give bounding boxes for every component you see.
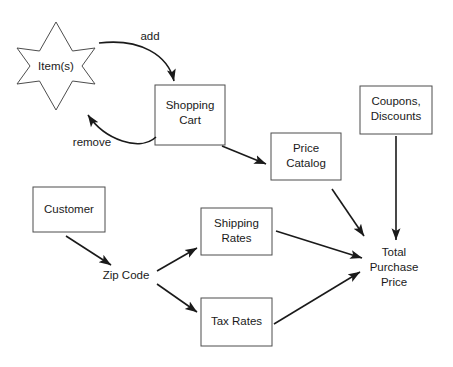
edge-cart-to-catalog[interactable] [222,146,266,164]
edge-customer-to-zip[interactable] [66,236,111,265]
node-total-purchase-price[interactable]: Total Purchase Price [370,246,419,288]
coupons-discounts-label-line2: Discounts [371,110,422,122]
node-shopping-cart[interactable]: Shopping Cart [155,85,225,145]
edge-zip-to-tax[interactable] [157,284,197,312]
coupons-discounts-label-line1: Coupons, [371,95,420,107]
node-items[interactable]: Item(s) [17,22,95,110]
edge-shipping-to-total[interactable] [276,231,362,258]
edge-zip-to-shipping[interactable] [157,248,197,271]
edge-label-remove: remove [73,136,111,148]
shipping-rates-label-line2: Rates [221,232,251,244]
node-customer[interactable]: Customer [33,187,105,232]
shopping-cart-label-line2: Cart [179,114,202,126]
customer-label: Customer [44,203,94,215]
flow-diagram: Item(s) Shopping Cart Price Catalog Coup… [0,0,453,367]
zip-code-label: Zip Code [103,269,150,281]
edge-catalog-to-total[interactable] [332,189,364,236]
tax-rates-label: Tax Rates [211,315,262,327]
price-catalog-label-line1: Price [293,142,319,154]
node-items-label: Item(s) [38,60,74,72]
edge-items-to-cart[interactable] [99,42,174,81]
node-tax-rates[interactable]: Tax Rates [201,298,272,346]
diagram-canvas: Item(s) Shopping Cart Price Catalog Coup… [0,0,453,367]
node-price-catalog[interactable]: Price Catalog [271,133,341,180]
edge-tax-to-total[interactable] [274,272,360,324]
total-purchase-price-label-line1: Total [382,246,406,258]
total-purchase-price-label-line2: Purchase [370,261,419,273]
shopping-cart-label-line1: Shopping [166,99,215,111]
total-purchase-price-label-line3: Price [381,276,407,288]
edge-label-add: add [140,30,159,42]
shipping-rates-label-line1: Shipping [214,217,259,229]
node-shipping-rates[interactable]: Shipping Rates [201,208,272,255]
node-coupons-discounts[interactable]: Coupons, Discounts [360,86,432,134]
node-zip-code[interactable]: Zip Code [103,269,150,281]
price-catalog-label-line2: Catalog [286,157,326,169]
